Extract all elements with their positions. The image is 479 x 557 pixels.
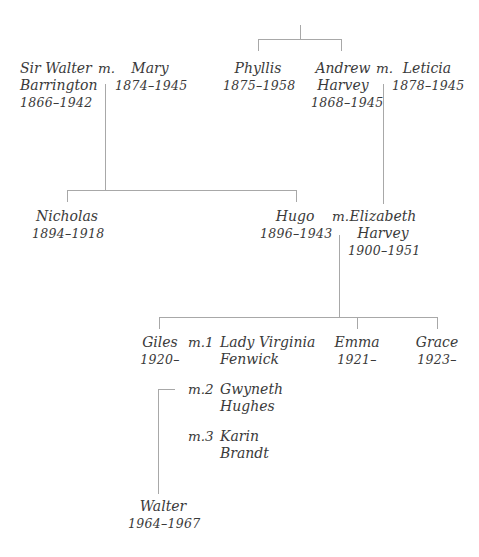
tree-line-phyllis-drop — [258, 39, 259, 51]
person-leticia: Leticia 1878–1945 — [392, 60, 462, 94]
person-dates: 1866–1942 — [20, 94, 90, 111]
person-nicholas: Nicholas 1894–1918 — [32, 208, 102, 242]
person-dates: 1900–1951 — [348, 242, 418, 259]
person-dates: 1878–1945 — [392, 77, 462, 94]
person-dates: 1964–1967 — [128, 515, 198, 532]
tree-line-emma-drop — [357, 317, 358, 329]
tree-line-barrington-marriage-stem — [105, 84, 106, 190]
person-dates: 1875–1958 — [223, 77, 293, 94]
tree-line-grace-drop — [437, 317, 438, 329]
marriage-marker: m. — [98, 60, 115, 76]
person-name: Leticia — [392, 60, 462, 77]
tree-line-andrew-drop — [341, 39, 342, 51]
tree-line-siblings-phyllis-andrew — [258, 39, 342, 40]
person-emma: Emma 1921– — [327, 334, 387, 368]
tree-line-hugo-drop — [296, 190, 297, 202]
person-grace: Grace 1923– — [407, 334, 467, 368]
tree-line-hugo-children — [159, 317, 438, 318]
person-dates: 1896–1943 — [260, 225, 330, 242]
person-name: Grace — [407, 334, 467, 351]
person-walter: Walter 1964–1967 — [128, 498, 198, 532]
person-name: Karin — [220, 428, 269, 445]
marriage-marker: m.3 — [188, 428, 214, 444]
person-hugo: Hugo 1896–1943 — [260, 208, 330, 242]
person-name: Fenwick — [220, 351, 315, 368]
person-name: Harvey — [311, 77, 375, 94]
person-name: Lady Virginia — [220, 334, 315, 351]
person-name: Hughes — [220, 398, 283, 415]
person-name: Harvey — [348, 225, 418, 242]
person-name: Brandt — [220, 445, 269, 462]
person-name: Andrew — [311, 60, 375, 77]
person-dates: 1923– — [407, 351, 467, 368]
tree-line-nicholas-drop — [67, 190, 68, 202]
person-mary: Mary 1874–1945 — [115, 60, 185, 94]
person-name: Hugo — [260, 208, 330, 225]
person-name: Phyllis — [223, 60, 293, 77]
person-name: Emma — [327, 334, 387, 351]
person-dates: 1894–1918 — [32, 225, 102, 242]
person-dates: 1874–1945 — [115, 77, 185, 94]
tree-line-barrington-children — [67, 190, 297, 191]
tree-line-giles-drop — [159, 317, 160, 329]
marriage-marker: m.1 — [188, 334, 214, 350]
person-name: Elizabeth — [348, 208, 418, 225]
person-name: Sir Walter — [20, 60, 90, 77]
person-andrew-harvey: Andrew Harvey 1868–1945 — [311, 60, 375, 111]
person-name: Barrington — [20, 77, 90, 94]
person-dates: 1868–1945 — [311, 94, 375, 111]
person-name: Nicholas — [32, 208, 102, 225]
person-elizabeth-harvey: Elizabeth Harvey 1900–1951 — [348, 208, 418, 259]
tree-line-hugo-marriage-stem — [339, 235, 340, 317]
person-name: Giles — [138, 334, 182, 351]
person-name: Gwyneth — [220, 381, 283, 398]
marriage-marker: m. — [332, 208, 349, 224]
person-karin-brandt: Karin Brandt — [220, 428, 269, 462]
tree-line-walter-descent — [158, 389, 159, 494]
person-name: Mary — [115, 60, 185, 77]
tree-line-top-stem — [300, 25, 301, 39]
person-dates: 1920– — [138, 351, 182, 368]
marriage-marker: m. — [376, 60, 393, 76]
person-phyllis: Phyllis 1875–1958 — [223, 60, 293, 94]
tree-line-m2-branch — [158, 389, 175, 390]
person-sir-walter-barrington: Sir Walter Barrington 1866–1942 — [20, 60, 90, 111]
person-name: Walter — [128, 498, 198, 515]
person-giles: Giles 1920– — [138, 334, 182, 368]
person-lady-virginia-fenwick: Lady Virginia Fenwick — [220, 334, 315, 368]
person-dates: 1921– — [327, 351, 387, 368]
person-gwyneth-hughes: Gwyneth Hughes — [220, 381, 283, 415]
marriage-marker: m.2 — [188, 381, 214, 397]
